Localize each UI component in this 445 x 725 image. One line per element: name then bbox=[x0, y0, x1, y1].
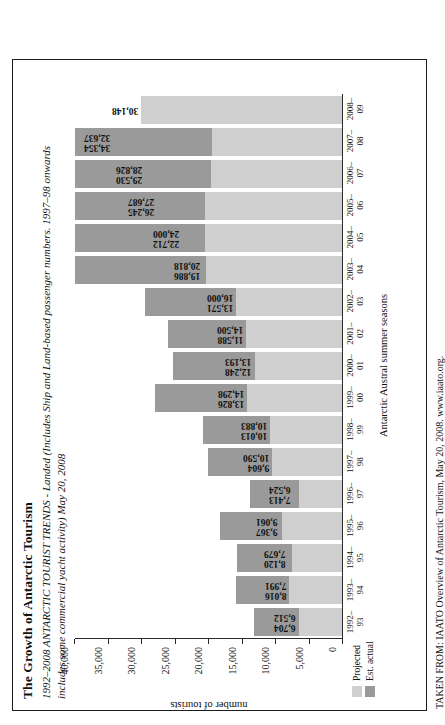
value-label-projected: 30,148 bbox=[112, 105, 138, 115]
value-label-projected: 32,637 bbox=[84, 132, 110, 142]
value-label-est-actual: 26,245 bbox=[128, 207, 154, 217]
x-axis-line bbox=[342, 94, 343, 639]
bar-projected bbox=[206, 256, 343, 284]
value-label-projected: 10,883 bbox=[241, 420, 267, 430]
x-tick-label: 1992–93 bbox=[345, 606, 366, 638]
y-axis-title: number of tourists bbox=[171, 700, 248, 711]
y-tick-label: 35,000 bbox=[92, 647, 103, 675]
chart-title: The Growth of Antarctic Tourism bbox=[20, 79, 37, 699]
bar-group: 9,60410,590 bbox=[75, 446, 343, 478]
x-tick-year-start: 2003– bbox=[345, 253, 355, 285]
bar-value-labels: 29,53028,826 bbox=[116, 164, 142, 184]
bar-pair: 30,148 bbox=[75, 96, 343, 124]
y-tick-mark bbox=[242, 639, 243, 644]
y-tick-mark bbox=[108, 639, 109, 644]
source-note: TAKEN FROM: IAATO Overview of Antarctic … bbox=[434, 356, 445, 709]
chart-subtitle: 1992–2008 ANTARCTIC TOURIST TRENDS - Lan… bbox=[39, 139, 69, 699]
bar-group: 11,58814,500 bbox=[75, 318, 343, 350]
bar-value-labels: 30,148 bbox=[112, 105, 138, 115]
value-label-projected: 14,500 bbox=[217, 324, 243, 334]
bar-projected bbox=[289, 576, 343, 604]
value-label-projected: 10,590 bbox=[243, 452, 269, 462]
x-tick-year-end: 02 bbox=[355, 317, 365, 349]
y-tick-mark bbox=[275, 639, 276, 644]
x-tick-label: 2008–09 bbox=[345, 93, 366, 125]
bar-pair: 13,82614,298 bbox=[75, 384, 343, 412]
y-tick-mark bbox=[175, 639, 176, 644]
value-label-projected: 28,826 bbox=[116, 164, 142, 174]
bar-projected bbox=[282, 512, 343, 540]
value-label-est-actual: 19,886 bbox=[174, 271, 200, 281]
bar-projected bbox=[246, 320, 343, 348]
x-tick-label: 2003–04 bbox=[345, 253, 366, 285]
bar-value-labels: 9,3679,061 bbox=[256, 516, 277, 536]
x-tick-year-end: 08 bbox=[355, 125, 365, 157]
bar-group: 22,71224,000 bbox=[75, 222, 343, 254]
legend-swatch bbox=[365, 686, 375, 697]
x-tick-year-start: 1999– bbox=[345, 382, 355, 414]
bar-projected bbox=[236, 288, 343, 316]
y-tick-mark bbox=[74, 639, 75, 644]
bar-pair: 26,24527,687 bbox=[75, 192, 343, 220]
x-tick-year-start: 2001– bbox=[345, 317, 355, 349]
bar-pair: 8,1207,679 bbox=[75, 544, 343, 572]
y-tick-mark bbox=[141, 639, 142, 644]
value-label-est-actual: 29,530 bbox=[116, 175, 142, 185]
bar-value-labels: 11,58814,500 bbox=[217, 324, 243, 344]
x-tick-year-start: 2002– bbox=[345, 285, 355, 317]
x-tick-year-start: 1995– bbox=[345, 510, 355, 542]
x-tick-label: 1998–99 bbox=[345, 414, 366, 446]
legend-label: Est. actual bbox=[365, 641, 375, 681]
bar-pair: 13,57116,000 bbox=[75, 288, 343, 316]
y-tick-label: 0 bbox=[327, 647, 338, 652]
plot-inner: 05,00010,00015,00020,00025,00030,00035,0… bbox=[75, 94, 343, 639]
x-tick-year-end: 93 bbox=[355, 606, 365, 638]
x-tick-label: 2001–02 bbox=[345, 317, 366, 349]
value-label-est-actual: 13,826 bbox=[218, 399, 244, 409]
legend: ProjectedEst. actual bbox=[352, 641, 375, 697]
x-tick-year-end: 94 bbox=[355, 574, 365, 606]
bar-projected bbox=[255, 352, 343, 380]
bar-est-actual bbox=[75, 160, 211, 188]
bar-group: 8,1207,679 bbox=[75, 542, 343, 574]
value-label-est-actual: 8,016 bbox=[265, 591, 286, 601]
x-axis-title: Antarctic Austral summer seasons bbox=[378, 93, 389, 638]
bar-group: 30,148 bbox=[75, 94, 343, 126]
bar-pair: 22,71224,000 bbox=[75, 224, 343, 252]
x-tick-label: 1996–97 bbox=[345, 478, 366, 510]
value-label-est-actual: 22,712 bbox=[153, 239, 179, 249]
value-label-projected: 13,193 bbox=[225, 356, 251, 366]
bar-projected bbox=[212, 128, 343, 156]
bar-group: 8,0167,991 bbox=[75, 574, 343, 606]
bar-pair: 7,4136,524 bbox=[75, 480, 343, 508]
x-tick-label: 2000–01 bbox=[345, 349, 366, 381]
bar-value-labels: 7,4136,524 bbox=[269, 484, 290, 504]
bar-pair: 9,3679,061 bbox=[75, 512, 343, 540]
value-label-est-actual: 13,571 bbox=[207, 303, 233, 313]
bar-projected bbox=[247, 384, 343, 412]
bar-group: 19,88620,818 bbox=[75, 254, 343, 286]
x-axis-tick-labels: 1992–931993–941994–951995–961996–971997–… bbox=[345, 93, 366, 638]
value-label-est-actual: 9,604 bbox=[243, 463, 269, 473]
y-tick-label: 5,000 bbox=[293, 647, 304, 670]
bar-group: 13,82614,298 bbox=[75, 382, 343, 414]
x-tick-year-end: 09 bbox=[355, 93, 365, 125]
value-label-projected: 14,298 bbox=[218, 388, 244, 398]
value-label-projected: 27,687 bbox=[128, 196, 154, 206]
bar-pair: 19,88620,818 bbox=[75, 256, 343, 284]
x-tick-year-start: 1993– bbox=[345, 574, 355, 606]
x-tick-year-end: 01 bbox=[355, 349, 365, 381]
bar-projected bbox=[205, 224, 343, 252]
bar-projected bbox=[141, 96, 343, 124]
bar-value-labels: 6,7046,512 bbox=[274, 612, 295, 632]
bar-group: 12,24813,193 bbox=[75, 350, 343, 382]
value-label-est-actual: 12,248 bbox=[225, 367, 251, 377]
x-tick-label: 2004–05 bbox=[345, 221, 366, 253]
value-label-est-actual: 11,588 bbox=[217, 335, 243, 345]
y-tick-label: 30,000 bbox=[126, 647, 137, 675]
value-label-projected: 6,524 bbox=[269, 484, 290, 494]
legend-swatch bbox=[352, 686, 362, 697]
x-tick-year-end: 05 bbox=[355, 221, 365, 253]
value-label-projected: 24,000 bbox=[153, 228, 179, 238]
bar-group: 13,57116,000 bbox=[75, 286, 343, 318]
